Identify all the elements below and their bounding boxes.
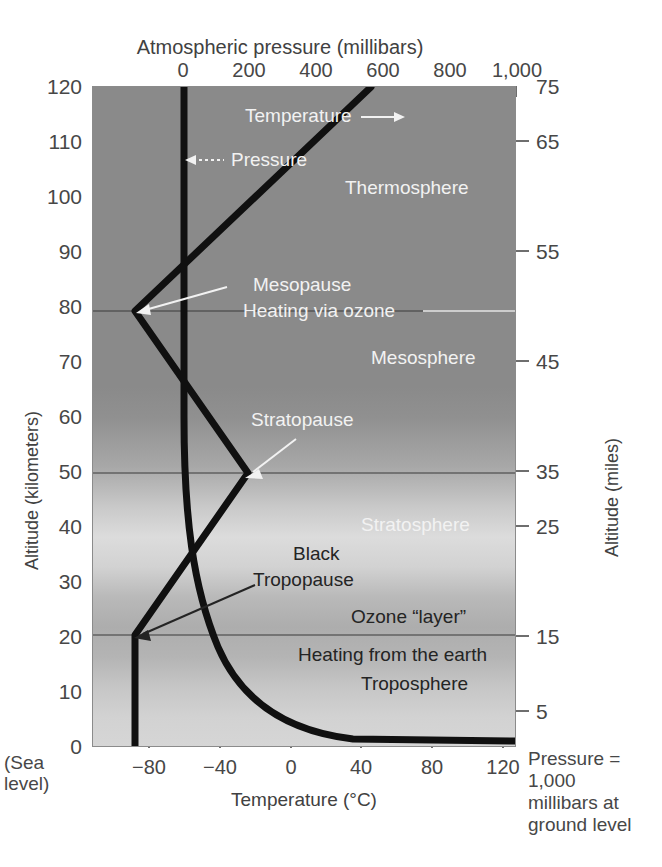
temperature-callout-arrow bbox=[361, 112, 405, 122]
annotation-mesopause: Mesopause bbox=[253, 274, 351, 296]
annotation-tropopause: Tropopause bbox=[253, 569, 354, 591]
annotation-ozone-layer: Ozone “layer” bbox=[351, 606, 466, 628]
annotation-stratosphere: Stratosphere bbox=[361, 514, 470, 536]
pressure-callout-arrow bbox=[185, 155, 224, 165]
annotation-heating-from-earth: Heating from the earth bbox=[298, 644, 487, 666]
annotation-temperature: Temperature bbox=[245, 105, 352, 127]
annotation-thermosphere: Thermosphere bbox=[345, 177, 469, 199]
annotation-pressure: Pressure bbox=[231, 149, 307, 171]
annotation-black: Black bbox=[293, 543, 339, 565]
chart-plot-area: Temperature Pressure Thermosphere Mesopa… bbox=[92, 86, 516, 747]
annotation-stratopause: Stratopause bbox=[251, 409, 353, 431]
annotation-heating-via-ozone: Heating via ozone bbox=[243, 300, 395, 322]
annotation-mesosphere: Mesosphere bbox=[371, 347, 476, 369]
annotation-troposphere: Troposphere bbox=[361, 673, 468, 695]
figure-root: Atmospheric pressure (millibars) 0 200 4… bbox=[0, 0, 662, 867]
